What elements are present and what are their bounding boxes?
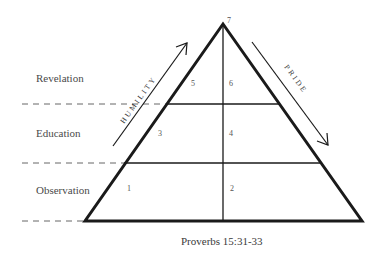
level-label-education: Education (36, 127, 81, 139)
cell-number-4: 4 (229, 129, 233, 138)
cell-number-2: 2 (230, 184, 234, 193)
cell-number-3: 3 (158, 129, 162, 138)
level-label-revelation: Revelation (36, 72, 84, 84)
pride-label: PRIDE (282, 63, 309, 95)
humility-label: HUMILITY (118, 74, 158, 125)
cell-number-6: 6 (229, 79, 233, 88)
cell-number-7: 7 (227, 16, 231, 25)
pride-arrow: PRIDE (252, 42, 328, 145)
level-label-observation: Observation (36, 184, 90, 196)
cell-number-5: 5 (191, 79, 195, 88)
caption: Proverbs 15:31-33 (181, 235, 263, 247)
cell-number-1: 1 (127, 184, 131, 193)
pyramid-diagram: HUMILITY PRIDE Revelation Education Obse… (0, 0, 384, 254)
